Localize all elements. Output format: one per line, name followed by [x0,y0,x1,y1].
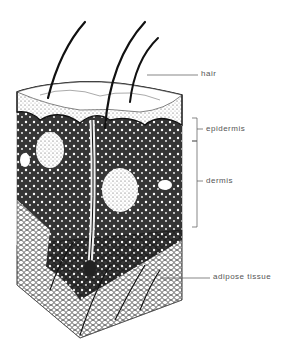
skin-block-illustration [0,0,285,358]
label-epidermis: epidermis [206,124,245,134]
skin-diagram: hair epidermis dermis adipose tissue [0,0,285,358]
label-dermis: dermis [206,176,233,186]
epidermis-bracket [192,118,203,141]
label-hair: hair [201,69,216,79]
dermis-bracket [192,141,203,227]
label-adipose-tissue: adipose tissue [213,272,271,282]
